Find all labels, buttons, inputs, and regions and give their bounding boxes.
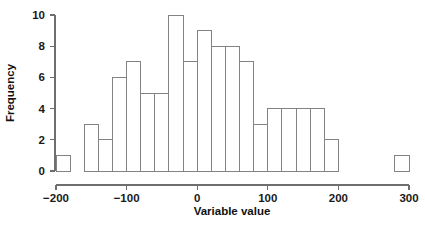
histogram-bar [324,140,338,171]
histogram-bar [169,15,183,171]
y-tick-marks [50,15,55,171]
histogram-bar [296,109,310,171]
histogram-bar [183,62,197,171]
y-tick-label: 6 [39,71,45,83]
x-tick-label: 0 [194,192,200,204]
histogram-bar [155,93,169,171]
histogram-bar [240,62,254,171]
x-tick-label: 100 [258,192,277,204]
histogram-bar [84,124,98,171]
histogram-bar [56,155,70,171]
y-tick-label: 10 [32,9,45,21]
histogram-bar [395,155,409,171]
histogram-bar [112,77,126,171]
histogram-figure: −200−1000100200300 0246810 Variable valu… [0,0,425,225]
histogram-bar [268,109,282,171]
y-tick-label: 8 [39,40,46,52]
histogram-svg: −200−1000100200300 0246810 Variable valu… [0,0,425,225]
histogram-bar [141,93,155,171]
y-tick-label: 2 [39,134,45,146]
y-tick-labels: 0246810 [32,9,45,177]
histogram-bar [98,140,112,171]
histogram-bar [225,46,239,171]
x-tick-label: −200 [43,192,69,204]
x-axis-title: Variable value [194,205,271,217]
y-tick-label: 4 [39,103,46,115]
y-axis-title: Frequency [4,63,16,122]
histogram-bar [310,109,324,171]
x-tick-marks [56,185,409,190]
y-tick-label: 0 [39,165,45,177]
histogram-bar [254,124,268,171]
x-tick-label: −100 [114,192,140,204]
histogram-bar [282,109,296,171]
x-tick-label: 300 [399,192,418,204]
x-tick-labels: −200−1000100200300 [43,192,419,204]
histogram-bar [127,62,141,171]
histogram-bar [197,31,211,171]
histogram-bar [211,46,225,171]
x-tick-label: 200 [329,192,348,204]
bars-group [56,15,409,171]
